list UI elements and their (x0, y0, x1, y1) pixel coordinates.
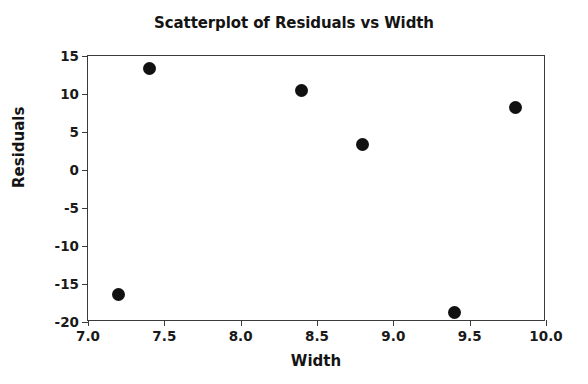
y-tick-label: -10 (55, 238, 79, 254)
y-tick-label: -5 (64, 200, 79, 216)
x-tick-mark (393, 320, 394, 326)
plot-area: 151050-5-10-15-20 7.07.58.08.59.09.510.0 (87, 55, 545, 321)
data-point (143, 62, 156, 75)
data-point (448, 306, 461, 319)
data-point (295, 84, 308, 97)
data-point (509, 101, 522, 114)
x-tick-label: 8.5 (305, 328, 329, 344)
y-tick-mark (82, 208, 88, 209)
y-tick-mark (82, 170, 88, 171)
scatterplot-figure: Scatterplot of Residuals vs Width 151050… (0, 0, 588, 384)
y-tick-mark (82, 246, 88, 247)
y-tick-label: 0 (70, 162, 79, 178)
x-tick-mark (470, 320, 471, 326)
y-tick-label: 10 (60, 86, 79, 102)
y-tick-mark (82, 94, 88, 95)
y-tick-label: -15 (55, 276, 79, 292)
x-tick-mark (546, 320, 547, 326)
x-tick-label: 8.0 (229, 328, 253, 344)
y-axis-title: Residuals (10, 107, 28, 188)
x-tick-mark (241, 320, 242, 326)
y-tick-mark (82, 132, 88, 133)
x-tick-mark (88, 320, 89, 326)
y-tick-mark (82, 56, 88, 57)
x-tick-mark (317, 320, 318, 326)
y-tick-mark (82, 284, 88, 285)
y-tick-label: 15 (60, 48, 79, 64)
x-axis-title: Width (87, 352, 545, 370)
data-point (356, 138, 369, 151)
x-tick-label: 7.5 (152, 328, 176, 344)
y-tick-label: 5 (70, 124, 79, 140)
x-tick-label: 9.5 (458, 328, 482, 344)
x-tick-mark (164, 320, 165, 326)
data-point (112, 288, 125, 301)
x-tick-label: 7.0 (76, 328, 100, 344)
x-tick-label: 9.0 (381, 328, 405, 344)
chart-title: Scatterplot of Residuals vs Width (0, 14, 588, 32)
x-tick-label: 10.0 (529, 328, 562, 344)
